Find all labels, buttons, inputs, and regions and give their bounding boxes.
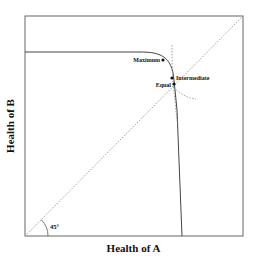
- maximum-point: [161, 58, 164, 61]
- diagram-canvas: Maximum Intermediate Equal 45°: [0, 0, 257, 261]
- maximum-label: Maximum: [133, 57, 160, 63]
- equality-line: [25, 16, 243, 236]
- intermediate-label: Intermediate: [176, 75, 210, 81]
- angle-label: 45°: [50, 223, 60, 230]
- possibility-frontier-curve: [25, 52, 182, 236]
- y-axis-label: Health of B: [4, 86, 16, 166]
- intermediate-point: [170, 76, 173, 79]
- angle-arc: [41, 220, 48, 236]
- equal-point: [172, 82, 175, 85]
- x-axis-label: Health of A: [0, 242, 257, 254]
- equal-label: Equal: [156, 82, 172, 88]
